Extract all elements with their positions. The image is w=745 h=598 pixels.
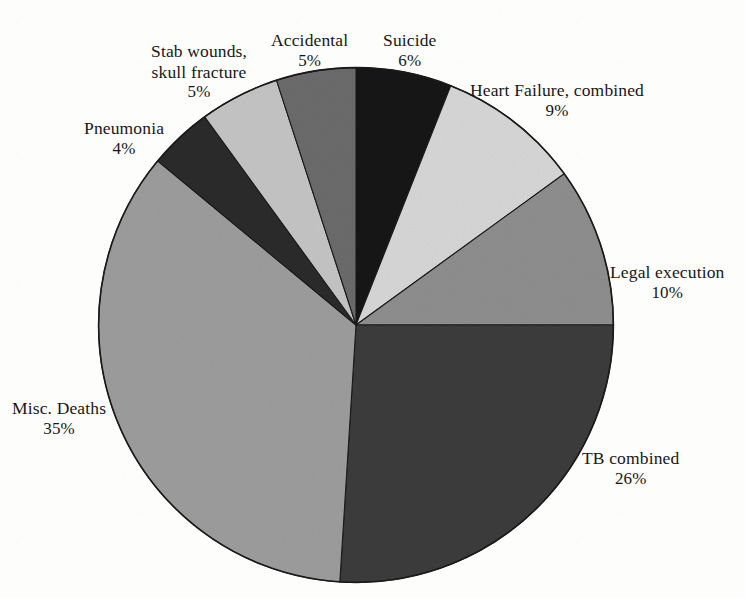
pie-chart — [97, 66, 615, 584]
pie-label-stab-wounds: Stab wounds, skull fracture 5% — [151, 41, 247, 102]
pie-label-name-pneumonia: Pneumonia — [84, 118, 164, 139]
pie-label-pneumonia: Pneumonia 4% — [84, 118, 164, 159]
cropped-title-text — [190, 0, 550, 11]
pie-slice-group — [99, 68, 614, 583]
pie-slice-tb-combined — [340, 325, 614, 582]
pie-label-heart-failure: Heart Failure, combined 9% — [470, 80, 644, 121]
pie-label-value-tb-combined: 26% — [582, 469, 679, 489]
pie-label-name-stab-wounds-line1: Stab wounds, — [151, 41, 247, 62]
pie-label-value-pneumonia: 4% — [84, 139, 164, 159]
pie-label-name-heart-failure: Heart Failure, combined — [470, 80, 644, 101]
pie-label-name-stab-wounds-line2: skull fracture — [151, 62, 247, 83]
pie-label-accidental: Accidental 5% — [271, 30, 348, 71]
pie-label-suicide: Suicide 6% — [383, 30, 437, 71]
pie-label-name-tb-combined: TB combined — [582, 448, 679, 469]
pie-label-legal-execution: Legal execution 10% — [610, 262, 725, 303]
pie-label-tb-combined: TB combined 26% — [582, 448, 679, 489]
pie-label-value-heart-failure: 9% — [470, 101, 644, 121]
pie-label-name-legal-execution: Legal execution — [610, 262, 725, 283]
pie-label-value-accidental: 5% — [271, 51, 348, 71]
pie-label-name-suicide: Suicide — [383, 30, 437, 51]
pie-label-value-suicide: 6% — [383, 51, 437, 71]
pie-label-name-accidental: Accidental — [271, 30, 348, 51]
pie-label-value-stab-wounds: 5% — [151, 82, 247, 102]
pie-label-value-misc-deaths: 35% — [12, 419, 106, 439]
pie-label-value-legal-execution: 10% — [610, 283, 725, 303]
pie-chart-svg — [97, 66, 615, 584]
chart-page: Suicide 6% Heart Failure, combined 9% Le… — [0, 0, 745, 598]
pie-label-misc-deaths: Misc. Deaths 35% — [12, 398, 106, 439]
pie-label-name-misc-deaths: Misc. Deaths — [12, 398, 106, 419]
